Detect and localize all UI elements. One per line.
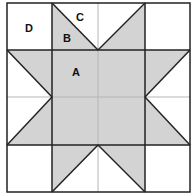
label-c: C bbox=[76, 11, 84, 23]
quilt-diagram: A B C D bbox=[0, 0, 193, 195]
label-a: A bbox=[72, 66, 80, 78]
label-b: B bbox=[63, 32, 71, 44]
label-d: D bbox=[25, 22, 33, 34]
faint-grid-lines bbox=[7, 3, 190, 192]
